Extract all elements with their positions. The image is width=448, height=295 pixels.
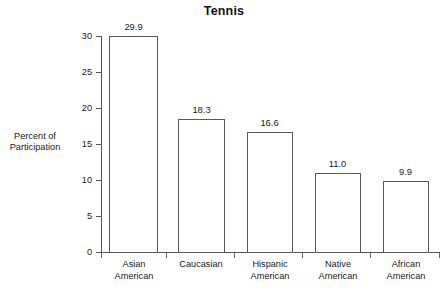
x-tick-0 [101, 253, 102, 258]
bar-hispanic-american[interactable] [247, 132, 293, 253]
x-tick-3 [302, 253, 303, 258]
bar-caucasian[interactable] [178, 119, 225, 253]
bar-value-african-american: 9.9 [376, 166, 435, 177]
chart-screenshot: Tennis Percent of Participation 30 25 20… [0, 0, 448, 295]
category-label-asian-american: Asian American [96, 259, 172, 282]
y-tick-label-30: 30 [68, 31, 92, 41]
y-tick-label-20: 20 [68, 103, 92, 113]
plot-area: 30 25 20 15 10 5 0 29.9 Asian American 1… [0, 0, 448, 295]
category-label-caucasian-line-1: Caucasian [163, 259, 239, 271]
y-tick-15 [96, 144, 101, 145]
y-tick-label-10: 10 [68, 175, 92, 185]
x-tick-5 [439, 253, 440, 258]
category-label-african-american-line-2: American [368, 271, 444, 283]
category-label-asian-american-line-2: American [96, 271, 172, 283]
y-tick-30 [96, 36, 101, 37]
category-label-native-american: Native American [300, 259, 376, 282]
bar-value-caucasian: 18.3 [172, 104, 231, 115]
y-tick-label-0: 0 [68, 247, 92, 257]
bar-african-american[interactable] [383, 181, 429, 253]
x-tick-4 [370, 253, 371, 258]
y-tick-5 [96, 216, 101, 217]
y-tick-label-25: 25 [68, 67, 92, 77]
y-tick-label-15: 15 [68, 139, 92, 149]
category-label-hispanic-american-line-1: Hispanic [232, 259, 308, 271]
y-tick-10 [96, 180, 101, 181]
x-tick-2 [234, 253, 235, 258]
y-axis-line [101, 36, 102, 253]
category-label-african-american: African American [368, 259, 444, 282]
category-label-hispanic-american-line-2: American [232, 271, 308, 283]
bar-value-asian-american: 29.9 [104, 21, 163, 32]
y-tick-label-5: 5 [68, 211, 92, 221]
bar-asian-american[interactable] [109, 36, 158, 253]
category-label-native-american-line-1: Native [300, 259, 376, 271]
bar-value-hispanic-american: 16.6 [240, 117, 299, 128]
category-label-native-american-line-2: American [300, 271, 376, 283]
y-tick-25 [96, 72, 101, 73]
y-tick-20 [96, 108, 101, 109]
bar-native-american[interactable] [315, 173, 361, 253]
x-tick-1 [166, 253, 167, 258]
category-label-caucasian: Caucasian [163, 259, 239, 271]
category-label-asian-american-line-1: Asian [96, 259, 172, 271]
category-label-african-american-line-1: African [368, 259, 444, 271]
category-label-hispanic-american: Hispanic American [232, 259, 308, 282]
bar-value-native-american: 11.0 [308, 158, 367, 169]
